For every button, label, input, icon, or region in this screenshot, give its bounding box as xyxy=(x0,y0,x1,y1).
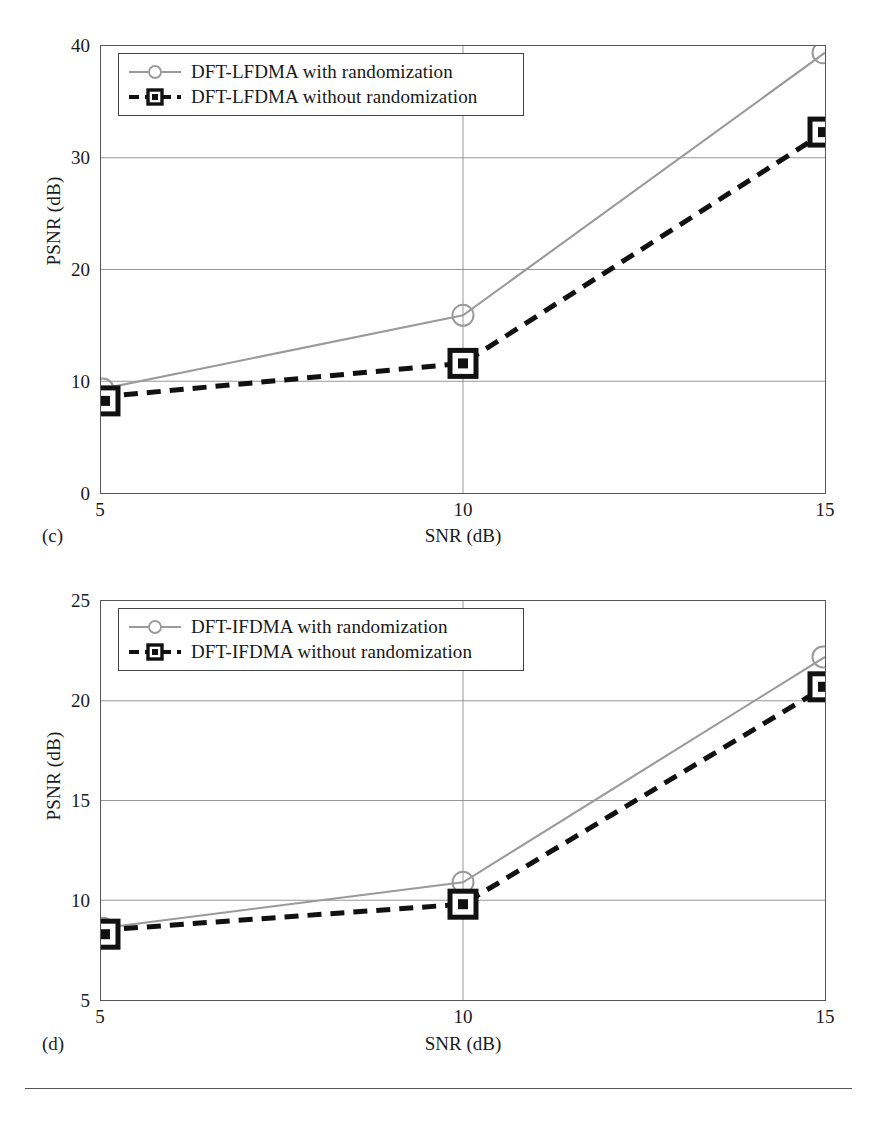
subfigure-caption-d: (d) xyxy=(42,1033,64,1055)
legend-d: DFT-IFDMA with randomization DFT-IFDMA w… xyxy=(118,608,524,671)
x-tick-c-10: 10 xyxy=(438,499,488,521)
x-tick-d-5: 5 xyxy=(75,1006,125,1028)
legend-row-d-0: DFT-IFDMA with randomization xyxy=(127,614,513,639)
y-tick-c-30: 30 xyxy=(40,147,90,169)
subfigure-caption-c: (c) xyxy=(42,525,63,547)
legend-row-c-0: DFT-LFDMA with randomization xyxy=(127,59,513,84)
x-axis-label-d: SNR (dB) xyxy=(313,1033,613,1055)
marker-square-d-2 xyxy=(810,674,825,700)
x-tick-d-15: 15 xyxy=(800,1006,850,1028)
marker-square-d-1 xyxy=(450,891,476,917)
x-tick-c-15: 15 xyxy=(800,499,850,521)
marker-square-c-1 xyxy=(450,350,476,376)
legend-marker-circle-open-icon xyxy=(127,63,183,81)
marker-square-c-0 xyxy=(101,388,118,414)
x-tick-d-10: 10 xyxy=(438,1006,488,1028)
legend-marker-square-filled-icon xyxy=(127,643,183,661)
y-tick-d-20: 20 xyxy=(40,690,90,712)
figure-c: PSNR (dB) 40 30 20 10 0 xyxy=(0,0,877,565)
x-tick-c-5: 5 xyxy=(75,499,125,521)
x-axis-label-c: SNR (dB) xyxy=(313,525,613,547)
legend-label-c-0: DFT-LFDMA with randomization xyxy=(191,61,453,83)
figure-d: PSNR (dB) 25 20 15 10 5 xyxy=(0,565,877,1075)
y-tick-d-10: 10 xyxy=(40,890,90,912)
marker-square-c-2 xyxy=(810,119,825,145)
legend-row-d-1: DFT-IFDMA without randomization xyxy=(127,639,513,664)
y-tick-c-10: 10 xyxy=(40,371,90,393)
page-divider-rule xyxy=(25,1088,852,1089)
legend-label-d-0: DFT-IFDMA with randomization xyxy=(191,616,447,638)
y-axis-label-d: PSNR (dB) xyxy=(10,765,50,787)
legend-marker-circle-open-icon xyxy=(127,618,183,636)
y-axis-label-c: PSNR (dB) xyxy=(10,210,50,232)
figure-page: PSNR (dB) 40 30 20 10 0 xyxy=(0,0,877,1128)
y-tick-d-15: 15 xyxy=(40,790,90,812)
legend-marker-square-filled-icon xyxy=(127,88,183,106)
legend-c: DFT-LFDMA with randomization DFT-LFDMA w… xyxy=(118,53,524,116)
y-tick-c-20: 20 xyxy=(40,259,90,281)
legend-row-c-1: DFT-LFDMA without randomization xyxy=(127,84,513,109)
y-tick-c-40: 40 xyxy=(40,35,90,57)
legend-label-d-1: DFT-IFDMA without randomization xyxy=(191,641,472,663)
y-tick-d-25: 25 xyxy=(40,590,90,612)
marker-square-d-0 xyxy=(101,921,118,947)
legend-label-c-1: DFT-LFDMA without randomization xyxy=(191,86,477,108)
